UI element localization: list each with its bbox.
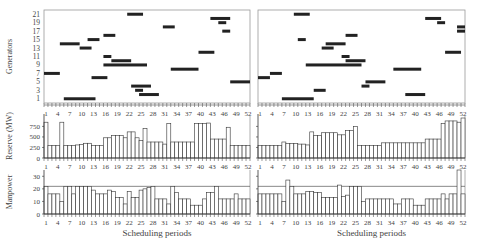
reserve-bar [64, 145, 68, 158]
y-tick-label: 20 [33, 185, 41, 193]
reserve-bar [334, 133, 338, 158]
x-tick-label: 4 [270, 163, 274, 171]
y-tick-label: 500 [30, 133, 41, 141]
reserve-bar [72, 145, 76, 158]
reserve-bar [187, 142, 191, 158]
x-tick-label: 1 [258, 163, 262, 171]
reserve-plot: 0250500750Reserve (MW)147101316192225283… [5, 112, 252, 171]
reserve-bar [234, 145, 238, 158]
reserve-plot: 147101316192225283134374043464952 [256, 114, 467, 171]
x-tick-label: 40 [197, 163, 205, 171]
reserve-bar [429, 139, 433, 158]
maintenance-bar [393, 68, 421, 71]
x-axis-label: Scheduling periods [337, 228, 407, 238]
manpower-bar [199, 205, 203, 214]
x-tick-label: 31 [376, 163, 384, 171]
x-tick-label: 1 [258, 110, 262, 118]
x-tick-label: 13 [304, 219, 312, 227]
x-tick-label: 34 [173, 219, 181, 227]
x-tick-label: 25 [138, 163, 146, 171]
x-tick-label: 34 [173, 110, 181, 118]
x-tick-label: 49 [233, 219, 241, 227]
reserve-bar [199, 123, 203, 158]
panel-right: 1471013161922252831343740434649521471013… [256, 10, 467, 238]
x-tick-label: 1 [44, 219, 48, 227]
reserve-bar [298, 144, 302, 158]
x-tick-label: 22 [126, 219, 134, 227]
manpower-bar [358, 186, 362, 214]
reserve-bar [230, 145, 234, 158]
x-tick-label: 43 [424, 219, 432, 227]
reserve-bar [358, 145, 362, 158]
reserve-bar [322, 133, 326, 158]
manpower-bar [99, 194, 103, 214]
x-tick-label: 31 [161, 163, 169, 171]
x-tick-label: 22 [340, 219, 348, 227]
x-tick-label: 46 [221, 110, 229, 118]
manpower-bar [437, 199, 441, 214]
x-tick-label: 37 [400, 163, 408, 171]
manpower-bar [330, 198, 334, 214]
maintenance-bar [210, 17, 230, 20]
reserve-bar [401, 143, 405, 158]
manpower-bar [270, 194, 274, 214]
manpower-bar [274, 194, 278, 214]
reserve-bar [147, 142, 151, 158]
maintenance-bar [218, 21, 226, 24]
manpower-bar [369, 199, 373, 214]
y-tick-label: 21 [33, 10, 41, 19]
reserve-bar [163, 144, 167, 158]
x-tick-label: 4 [270, 219, 274, 227]
reserve-bar [60, 122, 64, 158]
manpower-bar [175, 193, 179, 214]
maintenance-bar [88, 38, 100, 41]
manpower-bar [449, 194, 453, 214]
reserve-bar [397, 143, 401, 158]
manpower-bar [88, 186, 92, 214]
x-tick-label: 31 [376, 219, 384, 227]
reserve-bar [369, 145, 373, 158]
y-tick-label: 0 [37, 211, 41, 219]
reserve-bar [119, 136, 123, 158]
reserve-bar [342, 135, 346, 158]
x-tick-label: 16 [316, 163, 324, 171]
manpower-bar [294, 194, 298, 214]
maintenance-bar [457, 30, 465, 33]
x-tick-label: 52 [460, 219, 468, 227]
x-tick-label: 10 [78, 163, 86, 171]
manpower-bar [258, 194, 262, 214]
maintenance-bar [230, 80, 250, 83]
reserve-bar [183, 142, 187, 158]
manpower-bar [103, 194, 107, 214]
x-tick-label: 43 [424, 163, 432, 171]
reserve-bar [159, 142, 163, 158]
x-tick-label: 16 [102, 110, 110, 118]
x-tick-label: 10 [292, 110, 300, 118]
reserve-bar [238, 145, 242, 158]
x-tick-label: 37 [400, 219, 408, 227]
reserve-bar [135, 138, 139, 158]
reserve-bar [143, 129, 147, 158]
reserve-bar [306, 145, 310, 158]
maintenance-bar [270, 72, 282, 75]
x-tick-label: 25 [352, 110, 360, 118]
reserve-bar [385, 143, 389, 158]
manpower-bar [453, 194, 457, 214]
x-tick-label: 4 [56, 110, 60, 118]
manpower-bar [421, 205, 425, 214]
manpower-bar [171, 186, 175, 214]
manpower-bar [405, 199, 409, 214]
manpower-bar [342, 196, 346, 214]
reserve-bar [433, 139, 437, 158]
x-tick-label: 43 [424, 110, 432, 118]
x-tick-label: 19 [328, 219, 336, 227]
manpower-bar [123, 204, 127, 214]
reserve-bar [393, 143, 397, 158]
manpower-bar [218, 199, 222, 214]
maintenance-bar [135, 89, 143, 92]
reserve-bar [453, 121, 457, 158]
maintenance-bar [342, 55, 350, 58]
x-tick-label: 16 [316, 219, 324, 227]
manpower-bar [167, 204, 171, 214]
reserve-bar [127, 132, 131, 158]
